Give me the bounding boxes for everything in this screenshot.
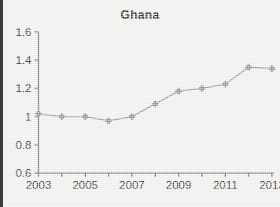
y-tick-label: 1.6 (16, 26, 32, 38)
x-tick-label: 2007 (119, 179, 145, 191)
chart-container: Ghana 0.60.811.21.41.6 20032005200720092… (0, 0, 280, 207)
data-point-marker (152, 101, 159, 108)
y-tick-label: 1.2 (16, 82, 32, 94)
data-point-marker (58, 113, 65, 120)
x-tick-label: 2009 (166, 179, 192, 191)
x-axis: 200320052007200920112013 (26, 173, 280, 191)
data-point-marker (175, 88, 182, 95)
chart-title: Ghana (0, 8, 280, 22)
left-frame-border (0, 0, 3, 207)
x-tick-label: 2013 (259, 179, 280, 191)
data-series-ghana (35, 64, 275, 124)
y-axis: 0.60.811.21.41.6 (16, 26, 39, 179)
y-tick-label: 0.8 (16, 139, 32, 151)
x-tick-label: 2011 (213, 179, 238, 191)
data-point-marker (269, 65, 276, 72)
data-point-marker (199, 85, 206, 92)
line-chart-plot: 0.60.811.21.41.6 20032005200720092011201… (0, 0, 280, 207)
y-tick-label: 1 (25, 111, 31, 123)
x-tick-label: 2003 (26, 179, 52, 191)
x-tick-label: 2005 (72, 179, 98, 191)
data-point-marker (105, 117, 112, 124)
y-tick-label: 1.4 (16, 54, 33, 66)
data-point-marker (82, 113, 89, 120)
data-point-marker (129, 113, 136, 120)
y-tick-label: 0.6 (16, 167, 32, 179)
